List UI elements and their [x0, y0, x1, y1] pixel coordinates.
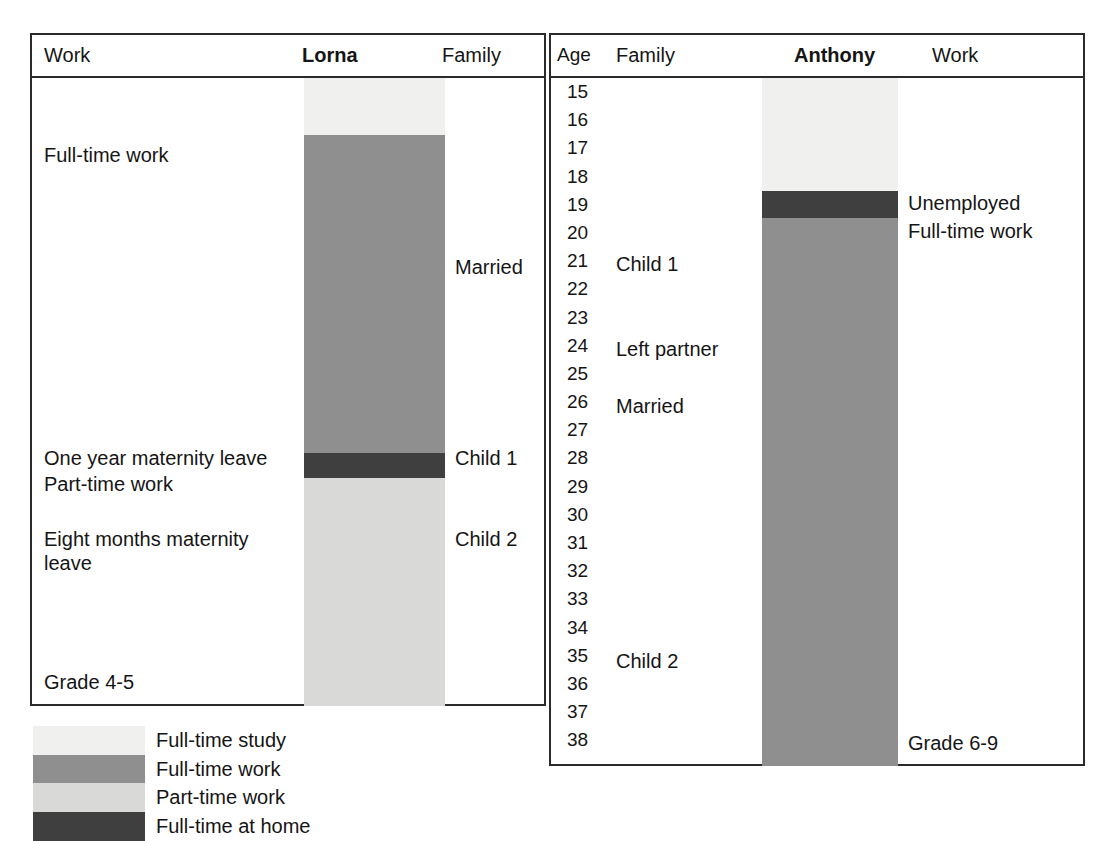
lorna-family-label-child-1: Child 1 [455, 446, 517, 470]
age-tick: 23 [551, 304, 604, 332]
legend-swatch-part-time-work [33, 783, 145, 812]
lorna-family-label-child-2: Child 2 [455, 527, 517, 551]
anthony-name-header: Anthony [794, 43, 875, 67]
lorna-work-label-one-year-maternity-leave: One year maternity leave [44, 446, 267, 470]
lorna-work-label-eight-months-maternity-leave-line2: leave [44, 551, 92, 575]
legend-swatch-full-time-at-home [33, 812, 145, 841]
lorna-name-header: Lorna [302, 43, 358, 67]
anthony-segment-full-time-at-home [762, 191, 898, 218]
age-tick: 34 [551, 614, 604, 642]
legend-label-full-time-study: Full-time study [156, 727, 286, 754]
legend-label-part-time-work: Part-time work [156, 784, 285, 811]
lorna-segment-full-time-at-home [304, 453, 445, 478]
age-tick: 26 [551, 388, 604, 416]
age-tick: 20 [551, 219, 604, 247]
lorna-work-label-grade: Grade 4-5 [44, 670, 134, 694]
anthony-work-label-full-time-work: Full-time work [908, 219, 1032, 243]
legend: Full-time study Full-time work Part-time… [33, 726, 633, 841]
lorna-work-label-full-time-work: Full-time work [44, 143, 168, 167]
age-tick: 32 [551, 557, 604, 585]
age-tick: 30 [551, 501, 604, 529]
anthony-timeline-bar [762, 78, 898, 766]
anthony-work-label-grade: Grade 6-9 [908, 731, 998, 755]
anthony-segment-full-time-work [762, 218, 898, 766]
age-tick: 28 [551, 444, 604, 472]
age-column-header: Age [557, 43, 591, 67]
lorna-header-divider [32, 76, 544, 78]
age-tick: 31 [551, 529, 604, 557]
age-tick: 29 [551, 473, 604, 501]
lorna-family-label-married: Married [455, 255, 523, 279]
lorna-work-label-eight-months-maternity-leave-line1: Eight months maternity [44, 527, 249, 551]
age-tick: 17 [551, 134, 604, 162]
legend-swatch-full-time-study [33, 726, 145, 755]
legend-item: Part-time work [33, 783, 633, 812]
lorna-segment-full-time-work [304, 135, 445, 453]
age-tick: 37 [551, 698, 604, 726]
legend-item: Full-time at home [33, 812, 633, 841]
legend-label-full-time-at-home: Full-time at home [156, 813, 311, 840]
lorna-work-label-part-time-work: Part-time work [44, 472, 173, 496]
legend-swatch-full-time-work [33, 755, 145, 784]
anthony-segment-full-time-study [762, 78, 898, 191]
age-tick: 35 [551, 642, 604, 670]
age-tick-list: 15 16 17 18 19 20 21 22 23 24 25 26 27 2… [551, 78, 604, 755]
age-tick: 18 [551, 163, 604, 191]
anthony-work-column-header: Work [932, 43, 978, 67]
anthony-panel: Family Anthony Work Child 1 Left partner… [604, 33, 1085, 766]
age-column: Age 15 16 17 18 19 20 21 22 23 24 25 26 … [549, 33, 606, 766]
lorna-family-column-header: Family [442, 43, 501, 67]
lorna-segment-full-time-study [304, 78, 445, 135]
anthony-family-label-left-partner: Left partner [616, 337, 718, 361]
anthony-family-label-child-1: Child 1 [616, 252, 678, 276]
legend-item: Full-time study [33, 726, 633, 755]
age-tick: 15 [551, 78, 604, 106]
lorna-panel: Work Lorna Family Full-time work One yea… [30, 33, 546, 706]
age-tick: 24 [551, 332, 604, 360]
age-tick: 25 [551, 360, 604, 388]
age-tick: 16 [551, 106, 604, 134]
anthony-family-column-header: Family [616, 43, 675, 67]
anthony-family-label-child-2: Child 2 [616, 649, 678, 673]
anthony-work-label-unemployed: Unemployed [908, 191, 1020, 215]
age-tick: 19 [551, 191, 604, 219]
age-tick: 21 [551, 247, 604, 275]
age-tick: 22 [551, 275, 604, 303]
age-tick: 33 [551, 585, 604, 613]
anthony-family-label-married: Married [616, 394, 684, 418]
legend-item: Full-time work [33, 755, 633, 784]
lorna-header-row: Work Lorna Family [32, 35, 544, 76]
age-tick: 27 [551, 416, 604, 444]
lorna-timeline-bar [304, 78, 445, 706]
lorna-work-column-header: Work [44, 43, 90, 67]
lorna-segment-part-time-work [304, 478, 445, 706]
age-tick: 36 [551, 670, 604, 698]
legend-label-full-time-work: Full-time work [156, 756, 280, 783]
